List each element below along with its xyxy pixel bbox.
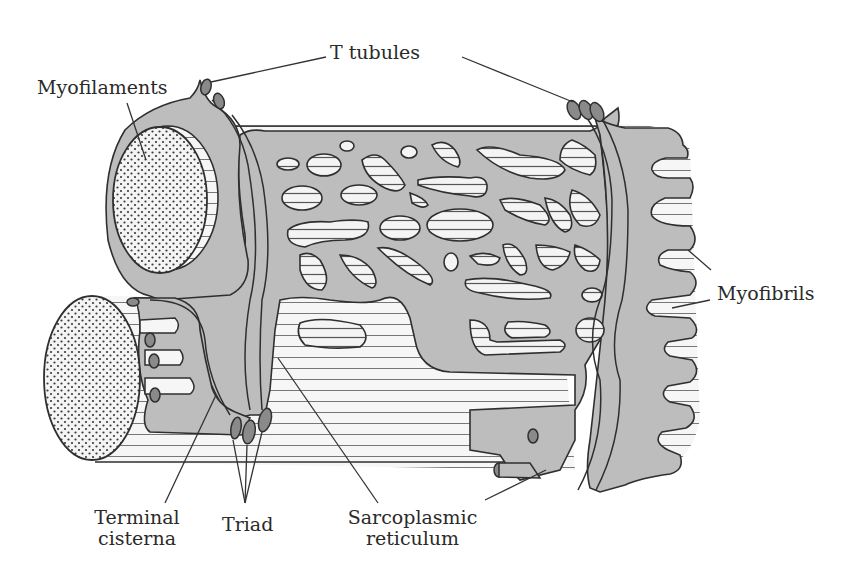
label-myofibrils: Myofibrils [717, 283, 814, 304]
upper-disc [113, 126, 218, 273]
label-t-tubules: T tubules [330, 42, 420, 63]
label-terminal-cisterna: Terminal cisterna [72, 507, 202, 549]
label-sarcoplasmic-reticulum-line2: reticulum [325, 528, 500, 549]
label-sarcoplasmic-reticulum: Sarcoplasmic reticulum [325, 507, 500, 549]
label-terminal-cisterna-line1: Terminal [72, 507, 202, 528]
label-myofilaments: Myofilaments [37, 77, 168, 98]
label-sarcoplasmic-reticulum-line1: Sarcoplasmic [325, 507, 500, 528]
lower-disc [44, 296, 140, 460]
label-triad: Triad [222, 514, 273, 535]
label-terminal-cisterna-line2: cisterna [72, 528, 202, 549]
